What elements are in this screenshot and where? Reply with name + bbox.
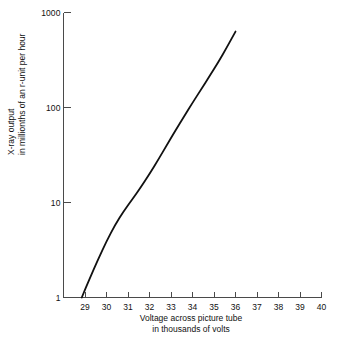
y-axis-title: X-ray outputin millionths of an r-unit p… (6, 0, 28, 155)
x-axis-title: Voltage across picture tubein thousands … (60, 313, 322, 335)
x-tick-label: 31 (123, 302, 133, 312)
x-tick-label: 33 (166, 302, 176, 312)
x-tick-label: 38 (274, 302, 284, 312)
x-tick-label: 37 (252, 302, 262, 312)
x-tick-label: 30 (102, 302, 112, 312)
y-tick-label: 1 (18, 293, 61, 303)
x-tick-label: 35 (209, 302, 219, 312)
x-tick-label: 34 (188, 302, 198, 312)
y-axis-title-line2: in millionths of an r-unit per hour (17, 34, 27, 155)
x-axis-title-line2: in thousands of volts (152, 324, 230, 334)
x-tick-label: 39 (295, 302, 305, 312)
chart-figure: 1101001000 293031323334353637383940 X-ra… (0, 0, 340, 349)
x-tick-label: 40 (317, 302, 327, 312)
x-axis-title-line1: Voltage across picture tube (140, 313, 243, 323)
x-tick-label: 36 (231, 302, 241, 312)
x-tick-label: 32 (145, 302, 155, 312)
y-axis-title-line1: X-ray output (6, 109, 16, 155)
x-tick-label: 29 (80, 302, 90, 312)
y-tick-label: 10 (18, 198, 61, 208)
